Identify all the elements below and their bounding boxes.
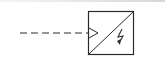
lightning-bolt-icon (117, 29, 123, 45)
arrowhead-icon (89, 28, 98, 38)
diagonal-divider (89, 12, 133, 54)
converter-diagram (0, 0, 165, 64)
